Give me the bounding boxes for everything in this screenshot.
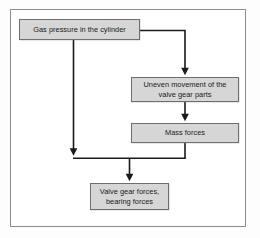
diagram-canvas: Gas pressure in the cylinder Uneven move…	[0, 0, 260, 238]
node-valve-gear-forces-label: Valve gear forces, bearing forces	[100, 187, 159, 207]
node-uneven-movement-label: Uneven movement of the valve gear parts	[143, 80, 226, 100]
node-uneven-movement-line-2: valve gear parts	[143, 90, 226, 100]
node-mass-forces: Mass forces	[131, 123, 239, 143]
node-valve-gear-forces: Valve gear forces, bearing forces	[90, 183, 169, 210]
connector-gas-to-uneven	[140, 31, 185, 72]
node-valve-gear-forces-line-2: bearing forces	[100, 197, 159, 207]
node-gas-pressure-label: Gas pressure in the cylinder	[23, 25, 136, 35]
node-valve-gear-forces-line-1: Valve gear forces,	[100, 187, 159, 197]
node-uneven-movement-line-1: Uneven movement of the	[143, 80, 226, 90]
node-mass-forces-label: Mass forces	[135, 128, 235, 138]
node-uneven-movement: Uneven movement of the valve gear parts	[131, 77, 239, 102]
node-gas-pressure: Gas pressure in the cylinder	[19, 19, 140, 40]
